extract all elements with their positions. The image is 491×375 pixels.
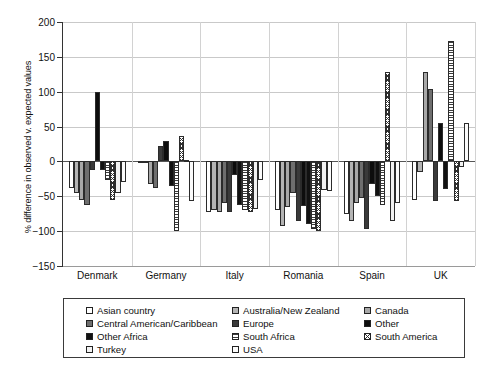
legend-label: South America <box>375 331 437 342</box>
x-tick-label-italy: Italy <box>225 270 243 281</box>
bar-spain-sthamer <box>385 72 390 161</box>
y-tick-label-0: 0 <box>0 156 55 167</box>
y-tick-label-100: 100 <box>0 86 55 97</box>
bar-uk-aus <box>417 161 422 171</box>
legend-swatch-europe-icon <box>232 320 239 327</box>
legend-item-cac[interactable]: Central American/Caribbean <box>86 318 218 329</box>
legend-label: Other Africa <box>97 331 148 342</box>
bar-germany-sthafr <box>174 161 179 231</box>
legend-swatch-usa-icon <box>232 346 239 353</box>
legend-swatch-sthafr-icon <box>232 333 239 340</box>
plot-area <box>63 22 475 266</box>
bar-uk-turkey <box>459 161 464 167</box>
bar-uk-cac <box>428 89 433 162</box>
x-tick-label-denmark: Denmark <box>77 270 118 281</box>
gridline--150 <box>63 266 475 267</box>
legend-swatch-cac-icon <box>86 320 93 327</box>
group-separator-uk <box>475 22 476 266</box>
bar-uk-sthamer <box>454 161 459 201</box>
bar-spain-usa <box>395 161 400 203</box>
chart-figure: % difference in observed v. expected val… <box>0 0 491 375</box>
legend-label: South Africa <box>243 331 295 342</box>
bar-italy-usa <box>258 161 263 180</box>
y-tick-label-50: 50 <box>0 121 55 132</box>
x-tick-label-germany: Germany <box>145 270 186 281</box>
bar-uk-otherafr <box>443 161 448 189</box>
bar-denmark-usa <box>121 161 126 182</box>
bar-uk-europe <box>433 161 438 201</box>
legend-label: Australia/New Zealand <box>243 305 340 316</box>
legend-label: Canada <box>375 305 409 316</box>
legend-item-other[interactable]: Other <box>364 318 399 329</box>
legend-label: USA <box>243 344 263 355</box>
legend-swatch-sthamer-icon <box>364 333 371 340</box>
bar-germany-sthamer <box>179 136 184 162</box>
legend-item-europe[interactable]: Europe <box>232 318 274 329</box>
bar-romania-usa <box>327 161 332 191</box>
legend-swatch-turkey-icon <box>86 346 93 353</box>
legend-swatch-aus-icon <box>232 307 239 314</box>
legend-swatch-canada-icon <box>364 307 371 314</box>
legend-label: Central American/Caribbean <box>97 318 218 329</box>
bar-denmark-other <box>95 92 100 162</box>
legend-swatch-otherafr-icon <box>86 333 93 340</box>
bar-denmark-europe <box>90 161 95 170</box>
bar-germany-usa <box>189 161 194 201</box>
legend-swatch-other-icon <box>364 320 371 327</box>
legend-item-otherafr[interactable]: Other Africa <box>86 331 148 342</box>
legend-item-sthafr[interactable]: South Africa <box>232 331 295 342</box>
group-separator-denmark <box>132 22 133 266</box>
legend-item-sthamer[interactable]: South America <box>364 331 437 342</box>
group-separator-germany <box>200 22 201 266</box>
legend-label: Other <box>375 318 399 329</box>
x-tick-label-spain: Spain <box>359 270 385 281</box>
legend-item-turkey[interactable]: Turkey <box>86 344 126 355</box>
bar-uk-usa <box>464 123 469 161</box>
bar-uk-sthafr <box>448 41 453 162</box>
group-separator-italy <box>269 22 270 266</box>
y-tick-label--50: −50 <box>0 191 55 202</box>
y-tick-label-200: 200 <box>0 17 55 28</box>
y-tick-label--150: −150 <box>0 261 55 272</box>
x-tick-label-romania: Romania <box>283 270 323 281</box>
chart-legend: Asian countryCentral American/CaribbeanO… <box>63 298 465 358</box>
x-tick-label-uk: UK <box>434 270 448 281</box>
legend-label: Turkey <box>97 344 126 355</box>
bar-uk-other <box>438 123 443 161</box>
legend-label: Asian country <box>97 305 155 316</box>
legend-swatch-asian-icon <box>86 307 93 314</box>
legend-label: Europe <box>243 318 274 329</box>
legend-item-usa[interactable]: USA <box>232 344 263 355</box>
y-tick-label-150: 150 <box>0 51 55 62</box>
bar-spain-sthafr <box>380 161 385 205</box>
legend-item-aus[interactable]: Australia/New Zealand <box>232 305 340 316</box>
bar-germany-cac <box>153 161 158 187</box>
group-separator-spain <box>406 22 407 266</box>
group-separator-romania <box>338 22 339 266</box>
legend-item-asian[interactable]: Asian country <box>86 305 155 316</box>
bar-germany-other <box>163 141 168 161</box>
legend-item-canada[interactable]: Canada <box>364 305 409 316</box>
y-tick-label--100: −100 <box>0 226 55 237</box>
